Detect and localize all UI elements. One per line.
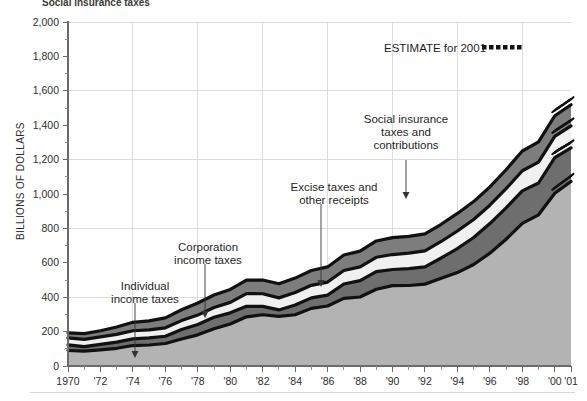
- y-tick-label: 1,400: [33, 119, 59, 131]
- x-tick-label: '76: [159, 375, 173, 387]
- legend-dot: [510, 45, 515, 50]
- estimate-legend: ESTIMATE for 2001: [384, 42, 522, 54]
- x-tick-label: '94: [451, 375, 465, 387]
- legend-dot: [489, 45, 494, 50]
- y-tick-label: 0: [53, 360, 59, 372]
- y-tick-label: 400: [41, 291, 59, 303]
- y-tick-label: 1,000: [33, 188, 59, 200]
- dotted-line-marker: [482, 45, 522, 50]
- x-tick-label: '86: [321, 375, 335, 387]
- x-tick-label: '74: [126, 375, 140, 387]
- x-tick-label: '00: [548, 375, 562, 387]
- x-axis-ticks: 1970'72'74'76'78'80'82'84'86'88'90'92'94…: [56, 366, 578, 387]
- receipts-chart: Social insurance taxes 02004006008001,00…: [0, 0, 587, 401]
- y-tick-label: 1,800: [33, 50, 59, 62]
- stacked-areas: [68, 105, 571, 366]
- x-tick-label: '84: [288, 375, 302, 387]
- x-tick-label: '72: [94, 375, 108, 387]
- x-tick-label: '88: [353, 375, 367, 387]
- legend-dot: [482, 45, 487, 50]
- y-tick-label: 1,200: [33, 153, 59, 165]
- y-axis-title: BILLIONS OF DOLLARS: [15, 122, 26, 240]
- y-tick-label: 600: [41, 256, 59, 268]
- x-tick-label: '96: [483, 375, 497, 387]
- legend-dot: [496, 45, 501, 50]
- annotation-label: Excise taxes andother receipts: [291, 181, 378, 206]
- y-axis-ticks: 02004006008001,0001,2001,4001,6001,8002,…: [33, 16, 68, 372]
- x-tick-label: '82: [256, 375, 270, 387]
- x-tick-label: '01: [564, 375, 578, 387]
- x-tick-label: '92: [418, 375, 432, 387]
- legend-dot: [503, 45, 508, 50]
- legend-dot: [517, 45, 522, 50]
- x-tick-label: '78: [191, 375, 205, 387]
- y-tick-label: 2,000: [33, 16, 59, 28]
- x-tick-label: 1970: [56, 375, 80, 387]
- estimate-legend-label: ESTIMATE for 2001: [384, 42, 486, 54]
- chart-canvas: Social insurance taxes 02004006008001,00…: [0, 0, 587, 401]
- x-tick-label: '80: [223, 375, 237, 387]
- annotation-label: Social insurancetaxes andcontributions: [364, 113, 448, 151]
- cut-off-title: Social insurance taxes: [42, 0, 150, 8]
- annotation-arrowhead: [403, 192, 410, 199]
- y-tick-label: 1,600: [33, 84, 59, 96]
- x-tick-label: '98: [515, 375, 529, 387]
- annotation-label: Individualincome taxes: [111, 280, 179, 305]
- x-tick-label: '90: [386, 375, 400, 387]
- y-tick-label: 800: [41, 222, 59, 234]
- y-tick-label: 200: [41, 325, 59, 337]
- annotation-label: Corporationincome taxes: [174, 241, 242, 266]
